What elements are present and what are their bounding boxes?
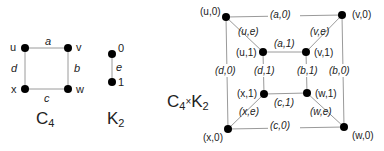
c4-vertex-w (64, 85, 72, 93)
product-edge-label-ve: (v,e) (310, 26, 329, 37)
product-vertex-u0 (222, 13, 230, 21)
c4-label-v: v (76, 41, 82, 53)
product-label-x0: (x,0) (203, 132, 223, 143)
product-graph: (u,0) (v,0) (w,0) (x,0) (u,1) (v,1) (w,1… (167, 6, 374, 143)
product-edge-label-ue: (u,e) (238, 26, 259, 37)
product-edge-label-c1: (c,1) (274, 97, 294, 108)
product-title: C4×K2 (167, 92, 209, 112)
product-vertex-v1 (302, 48, 310, 56)
product-edge-label-c0: (c,0) (270, 120, 290, 131)
product-vertex-x0 (224, 125, 232, 133)
product-label-w0: (w,0) (352, 130, 374, 141)
c4-vertex-u (21, 44, 29, 52)
c4-edge-label-b: b (74, 62, 80, 74)
product-label-v1: (v,1) (314, 47, 333, 58)
product-edge-label-xe: (x,e) (239, 106, 259, 117)
product-edge-c1 (264, 93, 307, 94)
c4-label-x: x (11, 83, 17, 95)
product-vertex-v0 (338, 11, 346, 19)
c4-vertex-v (64, 44, 72, 52)
k2-vertex-0 (108, 50, 116, 58)
product-edge-label-b1: (b,1) (297, 65, 318, 76)
product-vertex-w0 (340, 123, 348, 131)
product-vertex-w1 (303, 89, 311, 97)
c4-edge-label-d: d (11, 62, 18, 74)
product-edge-label-d1: (d,1) (254, 65, 275, 76)
product-label-w1: (w,1) (315, 88, 337, 99)
c4-graph: u v w x a b c d C4 (10, 35, 84, 129)
product-label-x1: (x,1) (237, 88, 257, 99)
k2-title: K2 (107, 109, 124, 129)
c4-vertex-x (21, 85, 29, 93)
product-label-v0: (v,0) (352, 9, 371, 20)
c4-label-w: w (75, 83, 84, 95)
product-label-u0: (u,0) (200, 6, 221, 17)
product-label-u1: (u,1) (236, 47, 257, 58)
c4-title: C4 (36, 109, 54, 129)
product-edge-label-a0: (a,0) (270, 9, 291, 20)
k2-edge-label-e: e (116, 61, 122, 73)
product-edge-label-b0: (b,0) (329, 65, 350, 76)
k2-vertex-1 (108, 78, 116, 86)
k2-label-1: 1 (118, 76, 124, 88)
c4-label-u: u (10, 41, 16, 53)
c4-edge-label-a: a (45, 35, 51, 47)
c4-edge-label-c: c (44, 92, 50, 104)
product-edge-label-d0: (d,0) (215, 65, 236, 76)
k2-label-0: 0 (118, 42, 124, 54)
product-edge-label-a1: (a,1) (274, 38, 295, 49)
graph-product-diagram: u v w x a b c d C4 0 1 e K2 (0, 0, 384, 151)
product-vertex-x1 (260, 90, 268, 98)
product-vertex-u1 (259, 48, 267, 56)
product-edge-label-we: (w,e) (310, 106, 332, 117)
k2-graph: 0 1 e K2 (107, 42, 124, 129)
